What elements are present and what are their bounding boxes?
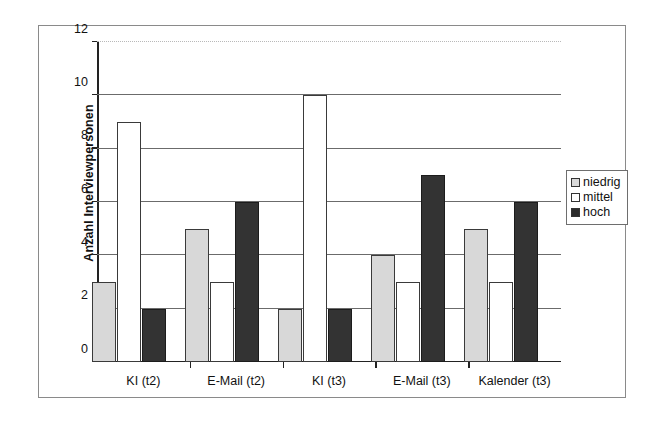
bar (92, 282, 116, 362)
y-tick-mark (92, 94, 97, 96)
bar (328, 309, 352, 362)
bar (514, 202, 538, 362)
category-label: E-Mail (t2) (207, 374, 265, 388)
y-tick-label: 0 (81, 342, 88, 356)
bar (396, 282, 420, 362)
bar (371, 255, 395, 362)
gridline (97, 41, 561, 42)
category-tick (190, 362, 192, 368)
legend-label: hoch (583, 206, 610, 219)
legend-label: niedrig (583, 176, 621, 189)
y-tick-label: 4 (81, 235, 88, 249)
legend-swatch-niedrig (571, 178, 580, 187)
bar (421, 175, 445, 362)
category-label: Kalender (t3) (478, 374, 550, 388)
category-tick (283, 362, 285, 368)
y-tick-mark (92, 147, 97, 149)
y-tick-label: 8 (81, 128, 88, 142)
category-label: KI (t2) (126, 374, 160, 388)
y-tick-label: 10 (74, 75, 88, 89)
bar (489, 282, 513, 362)
bar (185, 229, 209, 362)
category-label: E-Mail (t3) (393, 374, 451, 388)
legend-swatch-hoch (571, 208, 580, 217)
chart-legend: niedrigmittelhoch (566, 170, 628, 225)
chart-figure-frame: Anzahl Interviewpersonen 024681012 KI (t… (38, 25, 626, 398)
legend-swatch-mittel (571, 193, 580, 202)
bar (210, 282, 234, 362)
bar (278, 309, 302, 362)
category-tick (468, 362, 470, 368)
y-tick-mark (92, 201, 97, 203)
gridline (97, 148, 561, 149)
legend-item: hoch (571, 205, 621, 220)
gridline (97, 201, 561, 202)
bar (303, 95, 327, 362)
bar (142, 309, 166, 362)
gridline (97, 94, 561, 95)
y-tick-label: 12 (74, 22, 88, 36)
bar (464, 229, 488, 362)
category-label: KI (t3) (312, 374, 346, 388)
bar (235, 202, 259, 362)
y-tick-mark (92, 254, 97, 256)
legend-item: niedrig (571, 175, 621, 190)
plot-area: 024681012 KI (t2)E-Mail (t2)KI (t3)E-Mai… (97, 42, 561, 362)
legend-label: mittel (583, 191, 613, 204)
y-tick-label: 6 (81, 182, 88, 196)
y-tick-mark (92, 41, 97, 43)
bar (117, 122, 141, 362)
legend-item: mittel (571, 190, 621, 205)
gridline (97, 254, 561, 255)
y-tick-label: 2 (81, 288, 88, 302)
category-tick (375, 362, 377, 368)
